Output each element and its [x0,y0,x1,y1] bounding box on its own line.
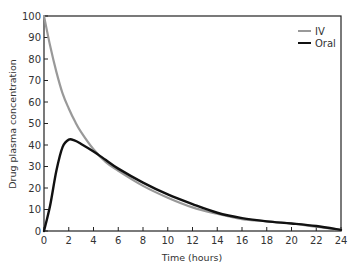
y-tick-label: 20 [28,183,41,194]
x-tick-label: 16 [236,235,249,246]
x-tick-label: 8 [140,235,146,246]
x-tick-label: 12 [186,235,199,246]
y-tick-label: 30 [28,161,41,172]
plot-frame [44,16,341,231]
y-tick-label: 70 [28,75,41,86]
y-tick-label: 40 [28,140,41,151]
x-axis-title: Time (hours) [161,252,222,263]
legend: IVOral [298,26,336,49]
x-tick-label: 20 [285,235,298,246]
y-tick-label: 100 [22,11,41,22]
x-tick-label: 22 [310,235,323,246]
legend-label-oral: Oral [315,38,336,49]
y-tick-label: 50 [28,118,41,129]
x-tick-label: 18 [260,235,273,246]
plot-border [44,16,341,231]
pk-line-chart: 0102030405060708090100 02468101214161820… [0,0,357,269]
y-tick-label: 10 [28,204,41,215]
x-tick-label: 2 [66,235,72,246]
x-tick-label: 14 [211,235,224,246]
legend-label-iv: IV [315,26,325,37]
series-layer [44,16,341,231]
series-line-iv [44,16,341,230]
y-axis-title: Drug plasma concentration [7,59,18,189]
x-tick-label: 10 [161,235,174,246]
x-tick-label: 0 [41,235,47,246]
series-line-oral [44,139,341,231]
y-tick-label: 80 [28,54,41,65]
x-tick-label: 24 [335,235,348,246]
y-tick-label: 60 [28,97,41,108]
x-tick-label: 4 [90,235,96,246]
x-axis: 024681012141618202224 [41,227,348,246]
y-tick-label: 90 [28,32,41,43]
x-tick-label: 6 [115,235,121,246]
